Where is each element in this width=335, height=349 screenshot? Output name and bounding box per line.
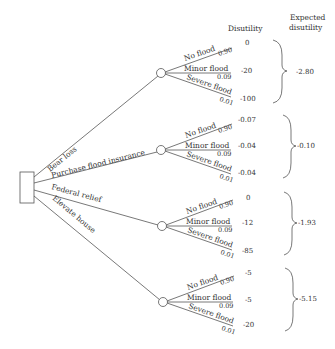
decision-node [20,172,34,203]
disutility-value: 0 [245,39,249,47]
chance-node [157,146,166,155]
chance-node [159,298,168,307]
brace [285,268,298,331]
expected-value: -0.10 [297,142,315,150]
disutility-value: -12 [242,219,253,227]
brace [284,192,297,255]
outcome-prob: 0.01 [220,324,236,336]
outcome-prob: 0.90 [218,199,234,211]
expected-value: -5.15 [299,295,317,303]
chance-node-group-3: No flood 0.90 Minor flood 0.09 Severe fl… [158,192,316,261]
header-disutility: Disutility [228,24,263,33]
disutility-value: -100 [240,95,256,103]
outcome-label: No flood [186,273,220,292]
chance-node-group-4: No flood 0.90 Minor flood 0.09 Severe fl… [159,268,317,337]
outcome-label: Minor flood [186,217,230,226]
expected-value: -2.80 [296,68,314,76]
outcome-prob: 0.01 [218,95,234,107]
outcome-label: Minor flood [184,64,228,73]
expected-value: -1.93 [298,219,316,227]
header-expected-line1: Expected [290,13,326,22]
outcome-prob: 0.09 [217,73,231,81]
outcome-label: No flood [185,197,219,216]
decision-tree-diagram: Disutility Expected disutility Bear loss… [0,0,335,349]
disutility-value: -5 [245,269,252,277]
outcome-prob: 0.90 [219,275,235,287]
chance-node-group-2: No flood 0.90 Minor flood 0.09 Severe fl… [157,115,315,185]
disutility-value: 0 [246,194,250,202]
outcome-prob: 0.01 [218,172,234,184]
alternative-branch-federal-relief: Federal relief [34,182,158,225]
disutility-value: -20 [243,321,254,329]
alternative-branch-elevate-house: Elevate house [34,194,160,300]
disutility-value: -20 [241,67,252,75]
brace [273,40,287,103]
outcome-prob: 0.90 [217,123,233,135]
header-expected-line2: disutility [289,23,323,32]
outcome-label: No flood [184,121,218,140]
outcome-prob: 0.09 [218,226,232,234]
outcome-prob: 0.09 [217,150,231,158]
chance-node-group-1: No flood 0.90 Minor flood 0.09 Severe fl… [157,39,314,108]
outcome-prob: 0.09 [219,302,233,310]
disutility-value: -5 [245,296,252,304]
outcome-label: Minor flood [185,141,229,150]
disutility-value: -85 [242,247,253,255]
disutility-value: -0.07 [238,116,256,124]
chance-node [157,69,166,78]
disutility-value: -0.04 [238,142,256,150]
outcome-prob: 0.01 [219,248,235,260]
chance-node [158,222,167,231]
outcome-label: Minor flood [187,293,231,302]
disutility-value: -0.04 [238,169,256,177]
brace [283,115,296,178]
outcome-prob: 0.90 [217,46,233,58]
